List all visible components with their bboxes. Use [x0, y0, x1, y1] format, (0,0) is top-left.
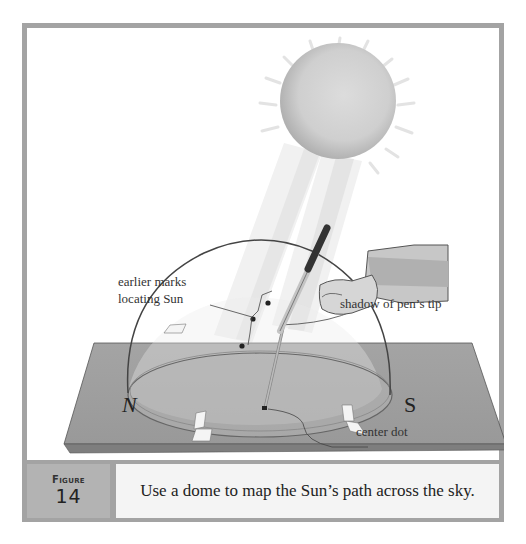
dome-illustration: earlier marks locating Sun shadow of pen…: [22, 23, 504, 465]
caption-row: Figure 14 Use a dome to map the Sun’s pa…: [22, 460, 504, 522]
figure-number-box: Figure 14: [27, 464, 110, 518]
label-north: N: [121, 392, 138, 417]
sun: [280, 43, 396, 159]
caption-box: Use a dome to map the Sun’s path across …: [116, 464, 499, 518]
figure-number: 14: [27, 485, 110, 507]
label-shadow-pen-tip: shadow of pen’s tip: [340, 296, 441, 311]
caption-text: Use a dome to map the Sun’s path across …: [140, 481, 475, 501]
label-center-dot: center dot: [356, 424, 408, 439]
label-earlier-marks-1: earlier marks: [118, 274, 186, 289]
label-earlier-marks-2: locating Sun: [118, 291, 184, 306]
mark-dot: [265, 300, 270, 305]
center-dot: [262, 406, 267, 410]
label-south: S: [404, 392, 416, 417]
mark-dot: [239, 343, 244, 348]
figure-label: Figure: [27, 474, 110, 485]
